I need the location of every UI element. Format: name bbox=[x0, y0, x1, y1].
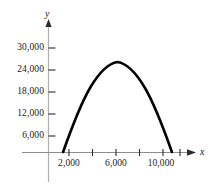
x-axis-name: x bbox=[200, 146, 204, 157]
y-axis-name: y bbox=[45, 8, 49, 19]
parabola-curve bbox=[63, 62, 172, 152]
x-tick-label-6000: 6,000 bbox=[94, 158, 138, 168]
parabola-chart-figure: 30,000 24,000 18,000 12,000 6,000 2,000 … bbox=[0, 0, 214, 186]
y-tick-label-24000: 24,000 bbox=[0, 64, 44, 74]
y-tick-label-12000: 12,000 bbox=[0, 108, 44, 118]
y-axis-ticks bbox=[49, 48, 56, 136]
y-tick-label-6000: 6,000 bbox=[0, 130, 44, 140]
x-tick-label-2000: 2,000 bbox=[47, 158, 91, 168]
y-axis-arrowhead bbox=[45, 19, 51, 27]
x-tick-label-10000: 10,000 bbox=[139, 158, 183, 168]
x-axis-arrowhead bbox=[187, 149, 196, 156]
y-tick-label-30000: 30,000 bbox=[0, 42, 44, 52]
y-tick-label-18000: 18,000 bbox=[0, 86, 44, 96]
